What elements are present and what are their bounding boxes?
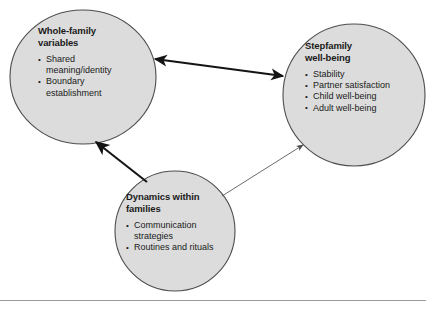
figure-canvas: Whole-family variables Shared meaning/id… <box>0 0 426 309</box>
bottom-divider <box>0 300 426 301</box>
node-shape-whole-family <box>10 10 156 144</box>
node-shape-dynamics <box>115 171 235 291</box>
connector-whole-family-stepfamily <box>155 59 283 76</box>
connector-dynamics-stepfamily <box>222 145 303 196</box>
connector-dynamics-whole-family <box>96 142 147 182</box>
diagram-graphic <box>0 0 426 309</box>
node-shape-stepfamily <box>283 24 425 166</box>
